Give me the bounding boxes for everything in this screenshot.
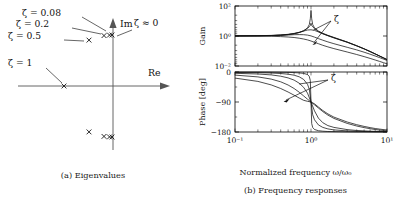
phase-subplot: 0 −90 −180 Phase [deg] ζ 10⁻¹ 10⁰	[198, 68, 393, 145]
label-zeta-1: ζ = 1	[8, 57, 32, 68]
pole-marker-zeta02-lower	[102, 134, 107, 139]
pole-marker-zeta008-lower	[107, 135, 112, 140]
gain-subplot: 10² 10⁰ 10⁻² Gain ζ	[198, 2, 387, 71]
gain-curve-zeta02	[235, 30, 387, 60]
gain-zeta-label: ζ	[334, 14, 339, 24]
pole-marker-zeta0-lower	[110, 135, 115, 140]
phase-ytick-1: 0	[226, 68, 231, 77]
real-axis	[18, 82, 170, 89]
leader-zetanear0	[117, 30, 132, 36]
frequency-axis-title: Normalized frequency ω/ω₀	[196, 168, 395, 177]
label-zeta-008: ζ = 0.08	[22, 7, 61, 18]
gain-ytick-1: 10²	[219, 2, 231, 11]
freq-xtick-1: 10⁻¹	[227, 136, 244, 145]
label-zeta-near-zero: ζ ≈ 0	[134, 17, 159, 28]
gain-axis-title: Gain	[198, 27, 207, 46]
label-zeta-05: ζ = 0.5	[8, 30, 41, 41]
leader-zeta02	[72, 28, 101, 34]
eigenvalue-plot: Re Im	[0, 0, 190, 168]
gain-curve-zeta1	[235, 36, 387, 64]
axis-label-im: Im	[120, 18, 133, 29]
phase-curves	[235, 72, 387, 132]
freq-xtick-2: 10⁰	[305, 136, 318, 145]
gain-curves	[235, 10, 387, 63]
leader-zeta008	[82, 17, 106, 31]
frequency-response-plot: 10² 10⁰ 10⁻² Gain ζ	[195, 0, 395, 168]
label-zeta-02: ζ = 0.2	[16, 18, 49, 29]
pole-marker-zeta008-upper	[107, 33, 112, 38]
pole-marker-zeta05-upper	[87, 38, 92, 43]
pole-marker-zeta0-upper	[110, 33, 115, 38]
caption-panel-b: (b) Frequency responses	[196, 185, 395, 195]
leader-zeta05	[64, 40, 84, 41]
axis-label-re: Re	[148, 67, 161, 78]
figure-container: Re Im	[0, 0, 395, 203]
gain-ytick-2: 10⁰	[219, 32, 231, 41]
imaginary-axis	[109, 18, 116, 150]
pole-marker-zeta02-upper	[102, 33, 107, 38]
leader-zeta1	[46, 68, 62, 83]
pole-marker-zeta05-lower	[87, 130, 92, 135]
phase-axis-title: Phase [deg]	[198, 78, 207, 126]
phase-ytick-2: −90	[215, 98, 231, 107]
caption-panel-a: (a) Eigenvalues	[0, 170, 186, 180]
phase-zeta-label: ζ	[331, 73, 336, 83]
freq-xtick-3: 10¹	[381, 136, 394, 145]
